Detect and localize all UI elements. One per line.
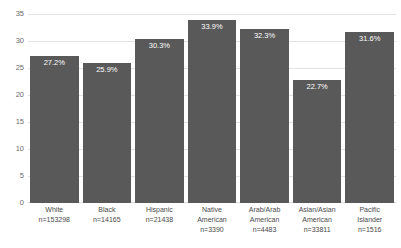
- x-tick-label: Asian/Asian American: [291, 205, 344, 225]
- x-tick-arab-american: Arab/Arab American n=4483: [238, 205, 291, 235]
- y-tick-label: 15: [0, 118, 24, 126]
- bar-value-label: 22.7%: [293, 82, 342, 91]
- x-tick-label: Arab/Arab American: [238, 205, 291, 225]
- bar-slot: 22.7%: [291, 14, 344, 203]
- x-tick-native-american: Native American n=3390: [186, 205, 239, 235]
- bar-pacific-islander[interactable]: 31.6%: [345, 32, 394, 203]
- x-tick-pacific-islander: Pacific Islander n=1516: [343, 205, 396, 235]
- x-tick-asian-american: Asian/Asian American n=33811: [291, 205, 344, 235]
- bar-chart: 35 30 25 20 15 10 5 0 27.2% 25.9% 30.3% …: [0, 0, 401, 248]
- x-axis-labels: White n=153298 Black n=14165 Hispanic n=…: [28, 205, 396, 245]
- bar-value-label: 33.9%: [188, 22, 237, 31]
- bar-value-label: 25.9%: [83, 65, 132, 74]
- x-tick-label: Black: [81, 205, 134, 215]
- y-tick-label: 5: [0, 172, 24, 180]
- bar-slot: 32.3%: [238, 14, 291, 203]
- x-tick-sample-size: n=1516: [343, 225, 396, 235]
- bar-arab-american[interactable]: 32.3%: [240, 29, 289, 203]
- bar-slot: 30.3%: [133, 14, 186, 203]
- bar-value-label: 31.6%: [345, 34, 394, 43]
- y-tick-label: 20: [0, 91, 24, 99]
- bar-slot: 31.6%: [343, 14, 396, 203]
- bar-black[interactable]: 25.9%: [83, 63, 132, 203]
- bar-native-american[interactable]: 33.9%: [188, 20, 237, 203]
- y-tick-label: 0: [0, 199, 24, 207]
- x-tick-sample-size: n=14165: [81, 215, 134, 225]
- bar-hispanic[interactable]: 30.3%: [135, 39, 184, 203]
- x-tick-black: Black n=14165: [81, 205, 134, 225]
- x-tick-hispanic: Hispanic n=21438: [133, 205, 186, 225]
- x-tick-sample-size: n=153298: [28, 215, 81, 225]
- x-tick-label: Pacific Islander: [343, 205, 396, 225]
- y-tick-label: 30: [0, 37, 24, 45]
- y-tick-label: 35: [0, 10, 24, 18]
- x-tick-sample-size: n=4483: [238, 225, 291, 235]
- bars-layer: 27.2% 25.9% 30.3% 33.9% 32.3% 22.7%: [28, 14, 396, 203]
- bar-asian-american[interactable]: 22.7%: [293, 80, 342, 203]
- x-tick-white: White n=153298: [28, 205, 81, 225]
- x-tick-sample-size: n=33811: [291, 225, 344, 235]
- bar-value-label: 27.2%: [30, 58, 79, 67]
- x-tick-label: Hispanic: [133, 205, 186, 215]
- bar-slot: 33.9%: [186, 14, 239, 203]
- x-tick-label: Native American: [186, 205, 239, 225]
- x-tick-label: White: [28, 205, 81, 215]
- bar-value-label: 32.3%: [240, 31, 289, 40]
- y-tick-label: 10: [0, 145, 24, 153]
- bar-slot: 27.2%: [28, 14, 81, 203]
- bar-slot: 25.9%: [81, 14, 134, 203]
- x-tick-sample-size: n=21438: [133, 215, 186, 225]
- bar-value-label: 30.3%: [135, 41, 184, 50]
- x-tick-sample-size: n=3390: [186, 225, 239, 235]
- y-tick-label: 25: [0, 64, 24, 72]
- bar-white[interactable]: 27.2%: [30, 56, 79, 203]
